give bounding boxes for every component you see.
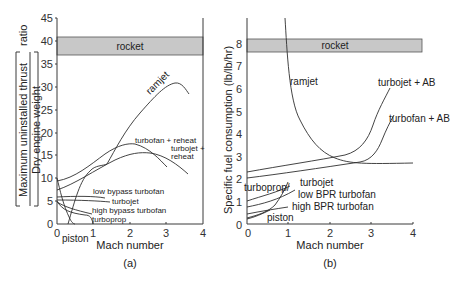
turbojet-ab-label: turbojet + AB <box>378 77 436 88</box>
low-bypass-turbofan-curve <box>57 196 105 198</box>
x-tick-2: 2 <box>127 227 133 239</box>
y-tick-b-1: 1 <box>236 196 242 208</box>
turboprop-label-a: turboprop <box>92 215 127 224</box>
turbofan-reheat-curve <box>57 144 167 181</box>
curve-labels-b: ramjet turbojet + AB turbofan + AB turbo… <box>244 76 450 223</box>
caption-b: (b) <box>323 257 336 269</box>
svg-text:Dry engine weight: Dry engine weight <box>30 86 42 174</box>
y-tick-20: 20 <box>41 127 53 139</box>
caption-a: (a) <box>123 257 136 269</box>
y-tick-25: 25 <box>41 104 53 116</box>
y-tick-15: 15 <box>41 149 53 161</box>
x-tick-4: 4 <box>200 227 206 239</box>
x-tick-b-3: 3 <box>368 227 374 239</box>
x-label-a: Mach number <box>96 239 164 251</box>
ramjet-label-b: ramjet <box>290 76 318 87</box>
y-tick-b-6: 6 <box>236 83 242 95</box>
panel-b: rocket 8 7 6 5 4 3 2 1 0 0 1 2 3 4 <box>222 18 450 269</box>
x-tick-b-1: 1 <box>285 227 291 239</box>
high-bypass-turbofan-label: high bypass turbofan <box>92 206 166 215</box>
y-label-a: Maximum uninstalled thrust Dry engine we… <box>16 25 42 206</box>
y-tick-30: 30 <box>41 81 53 93</box>
rocket-label-a: rocket <box>116 41 143 52</box>
turbojet-label-a: turbojet <box>112 197 139 206</box>
turbojet-label-b: turbojet <box>300 177 334 188</box>
panel-a: rocket 45 40 35 30 25 20 15 10 5 0 <box>16 12 206 269</box>
piston-label-b: piston <box>267 212 294 223</box>
y-tick-0: 0 <box>47 218 53 230</box>
y-tick-5: 5 <box>47 195 53 207</box>
y-tick-b-3: 3 <box>236 151 242 163</box>
y-tick-b-8: 8 <box>236 38 242 50</box>
high-bpr-turbofan-label: high BPR turbofan <box>292 201 374 212</box>
turbojet-reheat-label-2: reheat <box>171 152 194 161</box>
y-tick-b-5: 5 <box>236 106 242 118</box>
x-tick-1: 1 <box>90 227 96 239</box>
x-ticks-b: 0 1 2 3 4 <box>245 222 416 239</box>
turbofan-ab-label: turbofan + AB <box>389 113 450 124</box>
y-tick-45: 45 <box>41 12 53 24</box>
y-tick-40: 40 <box>41 35 53 47</box>
ramjet-label-a: ramjet <box>144 69 172 97</box>
turboprop-label-b: turboprop/ <box>244 182 290 193</box>
low-bpr-turbofan-label: low BPR turbofan <box>298 189 376 200</box>
x-label-b: Mach number <box>296 239 364 251</box>
y-tick-b-0: 0 <box>236 219 242 231</box>
y-tick-10: 10 <box>41 172 53 184</box>
x-tick-b-4: 4 <box>410 227 416 239</box>
turbojet-reheat-curve <box>57 153 188 190</box>
low-bypass-turbofan-label: low bypass turbofan <box>93 187 164 196</box>
y-tick-b-7: 7 <box>236 60 242 72</box>
y-ticks-b: 8 7 6 5 4 3 2 1 0 <box>236 38 242 231</box>
x-tick-0: 0 <box>54 227 60 239</box>
figure: rocket 45 40 35 30 25 20 15 10 5 0 <box>0 0 454 281</box>
y-tick-35: 35 <box>41 58 53 70</box>
curve-labels-a: ramjet turbofan + reheat turbojet + rehe… <box>62 69 205 244</box>
piston-label-a: piston <box>62 233 89 244</box>
x-tick-b-0: 0 <box>245 227 251 239</box>
y-tick-b-4: 4 <box>236 128 242 140</box>
turbojet-curve-a <box>57 200 110 202</box>
turbojet-ab-curve <box>247 88 390 172</box>
x-tick-b-2: 2 <box>327 227 333 239</box>
svg-text:ratio: ratio <box>17 25 29 46</box>
x-tick-3: 3 <box>163 227 169 239</box>
y-tick-b-2: 2 <box>236 173 242 185</box>
rocket-label-b: rocket <box>321 40 348 51</box>
y-ticks-a: 45 40 35 30 25 20 15 10 5 0 <box>41 12 57 230</box>
piston-curve-a <box>57 178 75 224</box>
svg-text:Maximum uninstalled thrust: Maximum uninstalled thrust <box>17 63 29 197</box>
y-label-b: Specific fuel consumption (lb/lb/hr) <box>222 46 234 214</box>
